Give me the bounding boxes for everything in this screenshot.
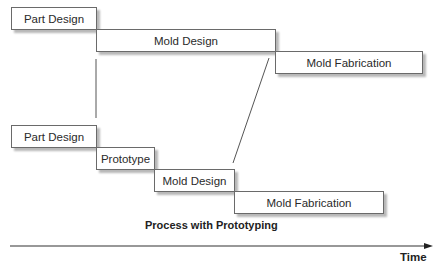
prototype-box: Prototype: [96, 147, 155, 170]
step-label: Part Design: [24, 13, 84, 25]
step-label: Mold Fabrication: [306, 57, 391, 69]
step-label: Part Design: [24, 131, 84, 143]
top-mold-design-box: Mold Design: [96, 29, 276, 52]
bottom-part-design-box: Part Design: [11, 125, 97, 148]
process-caption: Process with Prototyping: [145, 219, 278, 231]
step-label: Mold Fabrication: [266, 197, 351, 209]
top-mold-fabrication-box: Mold Fabrication: [275, 51, 423, 74]
time-axis-label: Time: [400, 251, 427, 263]
step-label: Prototype: [101, 153, 150, 165]
step-label: Mold Design: [154, 35, 218, 47]
bottom-mold-design-box: Mold Design: [154, 169, 235, 192]
bottom-mold-fabrication-box: Mold Fabrication: [234, 191, 384, 214]
step-label: Mold Design: [163, 175, 227, 187]
top-part-design-box: Part Design: [11, 7, 97, 30]
